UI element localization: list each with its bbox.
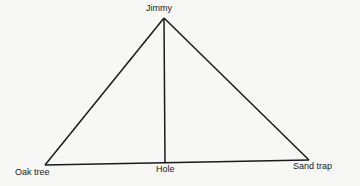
triangle-diagram xyxy=(0,0,360,186)
label-jimmy: Jimmy xyxy=(146,3,172,13)
label-hole: Hole xyxy=(156,164,175,174)
segment-jimmy-sand-trap xyxy=(164,18,309,160)
label-sand-trap: Sand trap xyxy=(293,161,332,171)
segment-jimmy-oak-tree xyxy=(45,18,164,165)
segment-jimmy-hole xyxy=(164,18,165,163)
label-oak-tree: Oak tree xyxy=(15,167,50,177)
segment-oak-tree-sand-trap xyxy=(45,160,309,165)
